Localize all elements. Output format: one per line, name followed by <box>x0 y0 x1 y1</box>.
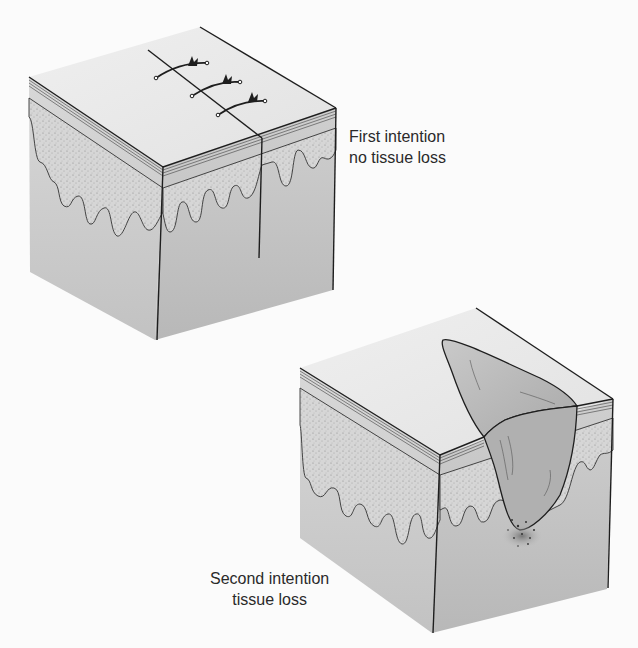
wound-healing-figure: First intention no tissue loss Second in… <box>0 0 638 648</box>
first-intention-label-line2: no tissue loss <box>349 147 446 168</box>
first-intention-block <box>29 27 336 340</box>
wound-base-granulation <box>502 524 542 548</box>
second-intention-label: Second intention tissue loss <box>210 568 329 610</box>
first-intention-label: First intention no tissue loss <box>349 126 446 168</box>
second-intention-block <box>300 308 613 633</box>
illustration <box>0 0 638 648</box>
second-intention-label-line1: Second intention <box>210 568 329 589</box>
second-intention-label-line2: tissue loss <box>210 589 329 610</box>
first-intention-label-line1: First intention <box>349 126 446 147</box>
